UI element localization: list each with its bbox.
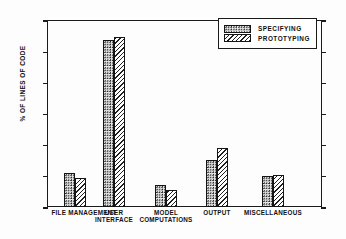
- y-axis-title: % OF LINES OF CODE: [19, 24, 26, 144]
- bar-prototyping-3: [217, 148, 228, 207]
- legend-label-prototyping: PROTOTYPING: [258, 35, 310, 42]
- x-label-4: MISCELLANEOUS: [230, 209, 316, 216]
- bar-specifying-3: [206, 160, 217, 207]
- chart-legend: SPECIFYING PROTOTYPING: [218, 18, 317, 49]
- legend-label-specifying: SPECIFYING: [258, 25, 302, 32]
- bar-group: [206, 148, 228, 207]
- bar-group: [64, 173, 86, 207]
- bar-group: [262, 175, 284, 207]
- legend-item-prototyping: PROTOTYPING: [224, 34, 310, 42]
- legend-swatch-specifying: [224, 25, 251, 33]
- bar-group: [103, 37, 125, 207]
- bar-group: [155, 185, 177, 207]
- legend-item-specifying: SPECIFYING: [224, 25, 310, 33]
- bar-prototyping-4: [273, 175, 284, 207]
- x-axis-category-labels: FILE MANAGEMENTUSER INTERFACEMODEL COMPU…: [0, 209, 346, 239]
- bar-specifying-0: [64, 173, 75, 207]
- bar-prototyping-0: [75, 178, 86, 207]
- bar-specifying-1: [103, 40, 114, 207]
- bar-specifying-4: [262, 176, 273, 207]
- bar-prototyping-1: [114, 37, 125, 207]
- legend-swatch-prototyping: [224, 34, 251, 42]
- bar-prototyping-2: [166, 190, 177, 207]
- bar-specifying-2: [155, 185, 166, 207]
- bar-chart: % OF LINES OF CODE 60 50 40 30 20 10 0 S…: [0, 0, 346, 239]
